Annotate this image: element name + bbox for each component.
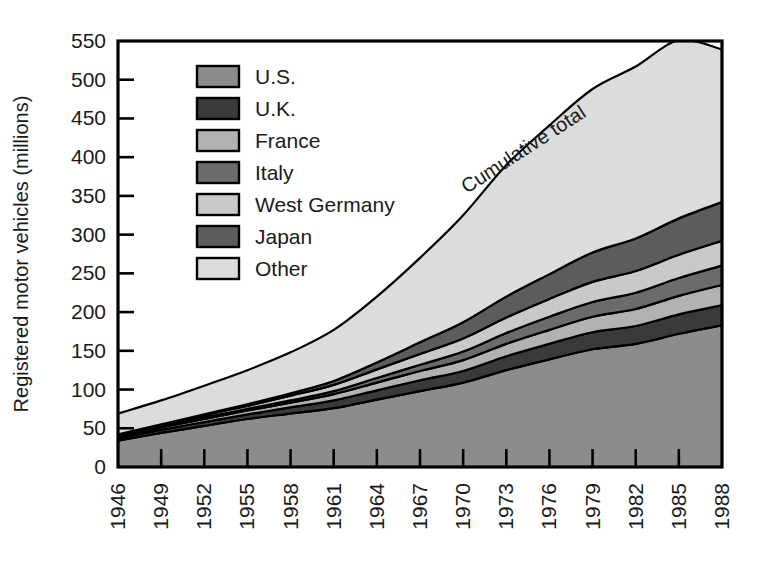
x-tick-label-1958: 1958 xyxy=(279,483,302,530)
x-tick-label-1955: 1955 xyxy=(235,483,258,530)
chart-figure: 050100150200250300350400450500550 194619… xyxy=(0,0,768,568)
legend-label-italy: Italy xyxy=(255,161,294,184)
x-tick-label-1976: 1976 xyxy=(537,483,560,530)
legend-swatch-other xyxy=(197,258,239,279)
legend-label-japan: Japan xyxy=(255,225,312,248)
legend-swatch-japan xyxy=(197,226,239,247)
x-tick-label-1946: 1946 xyxy=(106,483,129,530)
y-tick-label-0: 0 xyxy=(94,455,106,478)
y-tick-label-250: 250 xyxy=(71,261,106,284)
legend-label-u-k: U.K. xyxy=(255,97,296,120)
legend-label-france: France xyxy=(255,129,320,152)
y-tick-label-450: 450 xyxy=(71,106,106,129)
y-tick-label-150: 150 xyxy=(71,339,106,362)
legend-label-u-s: U.S. xyxy=(255,65,296,88)
x-tick-label-1952: 1952 xyxy=(192,483,215,530)
x-tick-label-1964: 1964 xyxy=(365,483,388,530)
y-tick-label-550: 550 xyxy=(71,29,106,52)
y-tick-label-400: 400 xyxy=(71,145,106,168)
y-tick-label-500: 500 xyxy=(71,68,106,91)
y-tick-label-350: 350 xyxy=(71,184,106,207)
x-tick-label-1988: 1988 xyxy=(710,483,733,530)
x-tick-label-1970: 1970 xyxy=(451,483,474,530)
legend-label-west-germany: West Germany xyxy=(255,193,395,216)
legend-swatch-italy xyxy=(197,162,239,183)
legend-swatch-france xyxy=(197,130,239,151)
x-tick-label-1979: 1979 xyxy=(581,483,604,530)
y-tick-label-200: 200 xyxy=(71,300,106,323)
x-tick-label-1961: 1961 xyxy=(322,483,345,530)
y-tick-label-100: 100 xyxy=(71,378,106,401)
legend-label-other: Other xyxy=(255,257,308,280)
x-axis-tick-labels: 1946194919521955195819611964196719701973… xyxy=(106,483,733,530)
y-tick-label-300: 300 xyxy=(71,223,106,246)
x-tick-label-1982: 1982 xyxy=(624,483,647,530)
legend-swatch-west-germany xyxy=(197,194,239,215)
y-tick-label-50: 50 xyxy=(83,416,106,439)
x-tick-label-1985: 1985 xyxy=(667,483,690,530)
legend-swatch-u-k xyxy=(197,98,239,119)
x-tick-label-1967: 1967 xyxy=(408,483,431,530)
legend-swatch-u-s xyxy=(197,66,239,87)
x-tick-label-1973: 1973 xyxy=(494,483,517,530)
x-tick-label-1949: 1949 xyxy=(149,483,172,530)
y-axis-title: Registered motor vehicles (millions) xyxy=(10,96,32,413)
